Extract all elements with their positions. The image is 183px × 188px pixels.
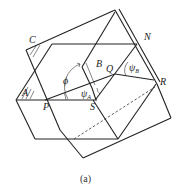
rotated-square-bottom — [83, 118, 171, 158]
label-b: B — [96, 58, 102, 69]
s-down-line — [93, 100, 118, 139]
lower-right-edge — [118, 84, 156, 139]
rotated-square-right — [157, 84, 171, 118]
rotated-square-left — [60, 130, 83, 158]
label-psi-a: ψA — [81, 88, 91, 100]
tilted-square-edge-right-double — [119, 9, 160, 82]
label-r: R — [159, 76, 166, 87]
label-p: P — [42, 101, 49, 112]
label-a: A — [21, 87, 29, 98]
label-psi-b: ψB — [129, 62, 139, 74]
hatching-c — [30, 45, 40, 57]
s-angle-arc — [97, 88, 100, 94]
lower-left-edge — [16, 100, 35, 139]
tilted-square-edge-left — [26, 50, 60, 130]
label-c: C — [29, 34, 36, 45]
label-q: Q — [106, 63, 114, 74]
q-r-line — [115, 74, 154, 80]
label-phi: ϕ — [63, 75, 68, 86]
label-s: S — [90, 101, 95, 112]
crystal-diagram: C A B N Q R P S ϕ ψA ψB (a) — [0, 0, 183, 188]
label-n: N — [143, 31, 152, 42]
caption: (a) — [80, 173, 91, 185]
psi-b-arc — [125, 62, 128, 76]
